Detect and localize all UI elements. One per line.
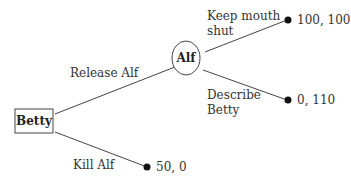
payoff-kill-alf: 50, 0 [156,160,187,174]
alf-label: Alf [175,51,196,65]
terminal-dot-keep-mouth-shut [285,17,292,24]
kill-alf-label: Kill Alf [73,158,116,172]
payoff-describe-betty: 0, 110 [297,93,335,107]
node-alf: Alf [172,41,200,75]
keep-mouth-shut-label-line2: shut [207,24,234,38]
release-alf-label: Release Alf [70,66,140,80]
terminal-dot-describe-betty [285,97,292,104]
betty-label: Betty [16,114,53,128]
describe-betty-label-line1: Describe [207,88,261,102]
node-betty: Betty [15,109,53,133]
terminal-dot-kill-alf [144,164,151,171]
payoff-keep-mouth-shut: 100, 100 [297,13,350,27]
describe-betty-label-line2: Betty [207,103,240,117]
keep-mouth-shut-label-line1: Keep mouth [207,9,280,23]
game-tree-diagram: Betty Alf Release Alf Kill Alf Keep mout… [0,0,351,189]
